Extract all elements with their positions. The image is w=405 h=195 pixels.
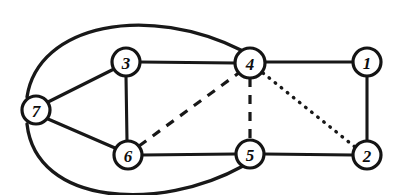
node-layer: 1 2 3 4 5 6 (22, 48, 381, 169)
node-6-label: 6 (124, 147, 133, 166)
node-3-label: 3 (121, 54, 131, 73)
graph-figure: 1 2 3 4 5 6 (0, 0, 405, 195)
node-3[interactable]: 3 (112, 48, 140, 76)
node-4[interactable]: 4 (235, 48, 265, 78)
node-1[interactable]: 1 (353, 48, 381, 76)
node-1-label: 1 (363, 54, 372, 73)
edge-7-3 (48, 69, 114, 102)
edge-6-4-dashed (139, 72, 240, 146)
node-2[interactable]: 2 (353, 141, 381, 169)
edge-5-6 (142, 154, 236, 155)
node-5-label: 5 (246, 146, 255, 165)
node-4-label: 4 (245, 55, 255, 74)
node-6[interactable]: 6 (114, 141, 142, 169)
edge-7-6 (48, 119, 115, 148)
edge-4-2-dotted (263, 73, 355, 147)
edge-6-3 (126, 76, 127, 141)
node-7[interactable]: 7 (22, 96, 50, 124)
edge-2-5 (264, 154, 353, 155)
graph-canvas: 1 2 3 4 5 6 (0, 0, 405, 195)
edge-layer (27, 25, 367, 195)
node-5[interactable]: 5 (236, 140, 264, 168)
node-2-label: 2 (362, 147, 372, 166)
edge-3-4 (140, 62, 235, 63)
